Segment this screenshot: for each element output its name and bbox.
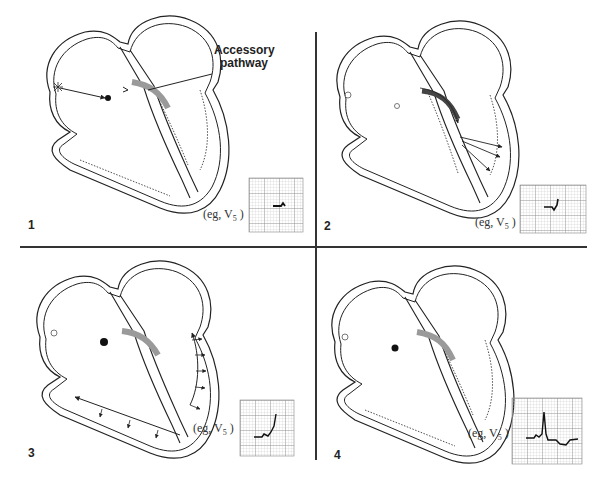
ecg-label-2: (eg, V5 ): [475, 215, 516, 231]
panel-1-heart: [47, 16, 229, 213]
ecg-label-3: (eg, V5 ): [193, 421, 234, 437]
ecg-label-1: (eg, V5 ): [203, 207, 244, 223]
accessory-pathway-callout: Accessory pathway: [214, 44, 275, 70]
ecg-strip-3: [240, 400, 294, 456]
panel-number-2: 2: [324, 219, 331, 233]
panel-number-1: 1: [28, 218, 35, 232]
ecg-label-4: (eg, V5 ): [468, 426, 509, 442]
panel-number-3: 3: [28, 446, 35, 460]
ecg-strip-4: [512, 398, 582, 464]
panel-number-4: 4: [334, 448, 341, 462]
panel-3-heart: [37, 261, 219, 458]
ecg-strip-1: [249, 178, 303, 232]
callout-line-2: pathway: [214, 57, 275, 70]
panel-2-heart: [337, 21, 519, 218]
ecg-strip-2: [520, 185, 586, 233]
wpw-conduction-diagram: Accessory pathway 1 2 3 4 (eg, V5 ) (eg,…: [0, 0, 606, 484]
